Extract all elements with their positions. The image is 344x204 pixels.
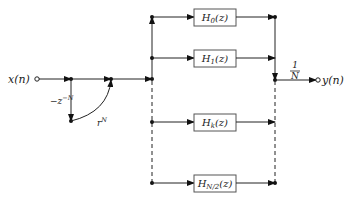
svg-text:1: 1 — [292, 60, 298, 70]
input-node: x(n) — [8, 73, 39, 86]
filter-hn2: HN/2(z) — [152, 175, 275, 192]
svg-text:y(n): y(n) — [321, 74, 344, 87]
filter-h1: H1(z) — [152, 50, 275, 67]
scale-factor: 1 N — [290, 60, 300, 81]
filter-hk: Hk(z) — [152, 114, 275, 131]
output-node: y(n) — [316, 74, 344, 87]
svg-text:x(n): x(n) — [8, 73, 30, 86]
gain-label: rN — [97, 116, 107, 128]
filter-h0: H0(z) — [152, 9, 275, 26]
signal-flow-diagram: x(n) −z−N rN H0(z) H1(z) — [0, 0, 344, 204]
delay-label: −z−N — [50, 94, 74, 106]
gain-arc — [71, 80, 111, 121]
